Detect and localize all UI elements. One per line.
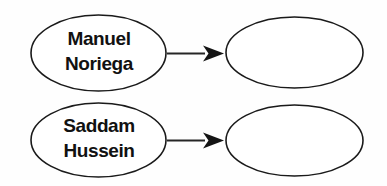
diagram-canvas: Manuel Noriega Saddam Hussein bbox=[0, 0, 387, 186]
node-manuel-noriega[interactable]: Manuel Noriega bbox=[31, 15, 166, 91]
arrow-noriega-to-blank[interactable] bbox=[167, 46, 224, 62]
row-noriega: Manuel Noriega bbox=[31, 15, 363, 91]
node-saddam-hussein-label-line1: Saddam bbox=[63, 115, 135, 136]
arrow-hussein-to-blank[interactable] bbox=[167, 133, 224, 149]
row-hussein: Saddam Hussein bbox=[31, 103, 363, 177]
diagram-svg: Manuel Noriega Saddam Hussein bbox=[0, 0, 387, 186]
arrow-hussein-to-blank-head bbox=[203, 133, 224, 149]
node-blank-bottom[interactable] bbox=[226, 105, 363, 176]
node-manuel-noriega-label-line1: Manuel bbox=[67, 28, 130, 49]
arrow-noriega-to-blank-head bbox=[203, 46, 224, 62]
node-saddam-hussein[interactable]: Saddam Hussein bbox=[31, 103, 166, 177]
node-saddam-hussein-label-line2: Hussein bbox=[63, 140, 134, 161]
node-manuel-noriega-label-line2: Noriega bbox=[65, 53, 134, 74]
node-blank-top-shape[interactable] bbox=[226, 17, 363, 88]
node-blank-bottom-shape[interactable] bbox=[226, 105, 363, 176]
node-blank-top[interactable] bbox=[226, 17, 363, 88]
